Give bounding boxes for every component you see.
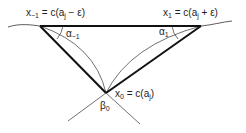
label-x-0: x0 = c(aj) (115, 88, 154, 101)
diagram-canvas: x−1 = c(aj − ε) x1 = c(aj + ε) x0 = c(aj… (0, 0, 246, 133)
label-alpha-1: α1 (159, 26, 169, 38)
angle-arc-alpha-minus-1 (57, 26, 63, 39)
side-right (106, 26, 201, 93)
triangle-diagram: x−1 = c(aj − ε) x1 = c(aj + ε) x0 = c(aj… (0, 0, 246, 133)
angle-arc-alpha-1 (172, 26, 178, 39)
label-x-minus-1: x−1 = c(aj − ε) (26, 7, 85, 20)
label-alpha-minus-1: α−1 (66, 28, 80, 40)
label-beta-0: β0 (100, 100, 110, 112)
label-x-1: x1 = c(aj + ε) (163, 7, 218, 20)
